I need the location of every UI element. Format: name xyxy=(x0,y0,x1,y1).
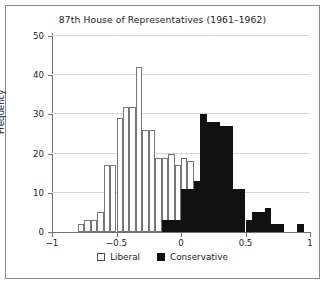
gridline xyxy=(52,113,310,114)
x-tick-label: −0.5 xyxy=(106,238,127,248)
legend-swatch-open-icon xyxy=(97,253,105,261)
x-tick-label: 1 xyxy=(307,238,312,248)
legend-swatch-filled-icon xyxy=(157,253,165,261)
chart-figure: 87th House of Representatives (1961–1962… xyxy=(0,0,325,284)
legend-label: Liberal xyxy=(110,252,140,262)
gridline xyxy=(52,35,310,36)
plot-area xyxy=(52,36,310,232)
histogram-bar xyxy=(297,224,303,232)
legend-item[interactable]: Conservative xyxy=(157,252,228,262)
y-tick-label: 40 xyxy=(33,70,44,80)
x-axis-line xyxy=(52,232,311,233)
x-tick-mark xyxy=(181,233,182,237)
x-tick-mark xyxy=(117,233,118,237)
legend-item[interactable]: Liberal xyxy=(97,252,140,262)
y-tick-label: 0 xyxy=(39,227,44,237)
chart-legend: LiberalConservative xyxy=(0,252,325,262)
x-tick-mark xyxy=(246,233,247,237)
x-tick-mark xyxy=(310,233,311,237)
chart-title: 87th House of Representatives (1961–1962… xyxy=(0,14,325,25)
y-tick-label: 30 xyxy=(33,109,44,119)
y-tick-label: 10 xyxy=(33,188,44,198)
y-tick-label: 50 xyxy=(33,31,44,41)
gridline xyxy=(52,74,310,75)
x-tick-label: −1 xyxy=(46,238,59,248)
histogram-bar xyxy=(278,224,284,232)
gridline xyxy=(52,153,310,154)
legend-label: Conservative xyxy=(170,252,228,262)
x-tick-label: 0.5 xyxy=(239,238,253,248)
x-tick-label: 0 xyxy=(178,238,183,248)
y-tick-label: 20 xyxy=(33,149,44,159)
x-tick-mark xyxy=(52,233,53,237)
y-axis-label: Frequency xyxy=(0,90,6,134)
